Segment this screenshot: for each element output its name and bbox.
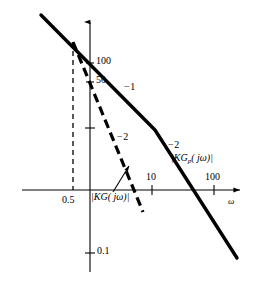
curve-label-kgp-tail: ( jω)| — [191, 152, 213, 163]
slope-label-minus-1: −1 — [124, 82, 136, 92]
slope-label-minus-2-solid: −2 — [168, 140, 180, 150]
bode-plot-figure: 100 50 0.1 0.5 10 100 ω −1 −2 −2 |KG( jω… — [0, 0, 257, 283]
y-tick-label-01: 0.1 — [97, 246, 110, 256]
curve-label-kgp-head: |KG — [171, 152, 188, 163]
y-tick-label-100: 100 — [96, 56, 111, 66]
x-tick-label-05: 0.5 — [62, 195, 75, 205]
curve-label-kgp: |KGp( jω)| — [171, 153, 213, 165]
kg-leader-line — [113, 166, 129, 192]
curve-kg — [73, 42, 143, 212]
curve-label-kg: |KG( jω)| — [91, 192, 129, 202]
x-tick-label-10: 10 — [146, 172, 156, 182]
curve-kgp — [41, 15, 237, 258]
x-axis-label-omega: ω — [228, 197, 234, 206]
y-tick-label-50: 50 — [96, 75, 106, 85]
x-tick-label-100: 100 — [205, 172, 220, 182]
slope-label-minus-2-dashed: −2 — [117, 132, 129, 142]
